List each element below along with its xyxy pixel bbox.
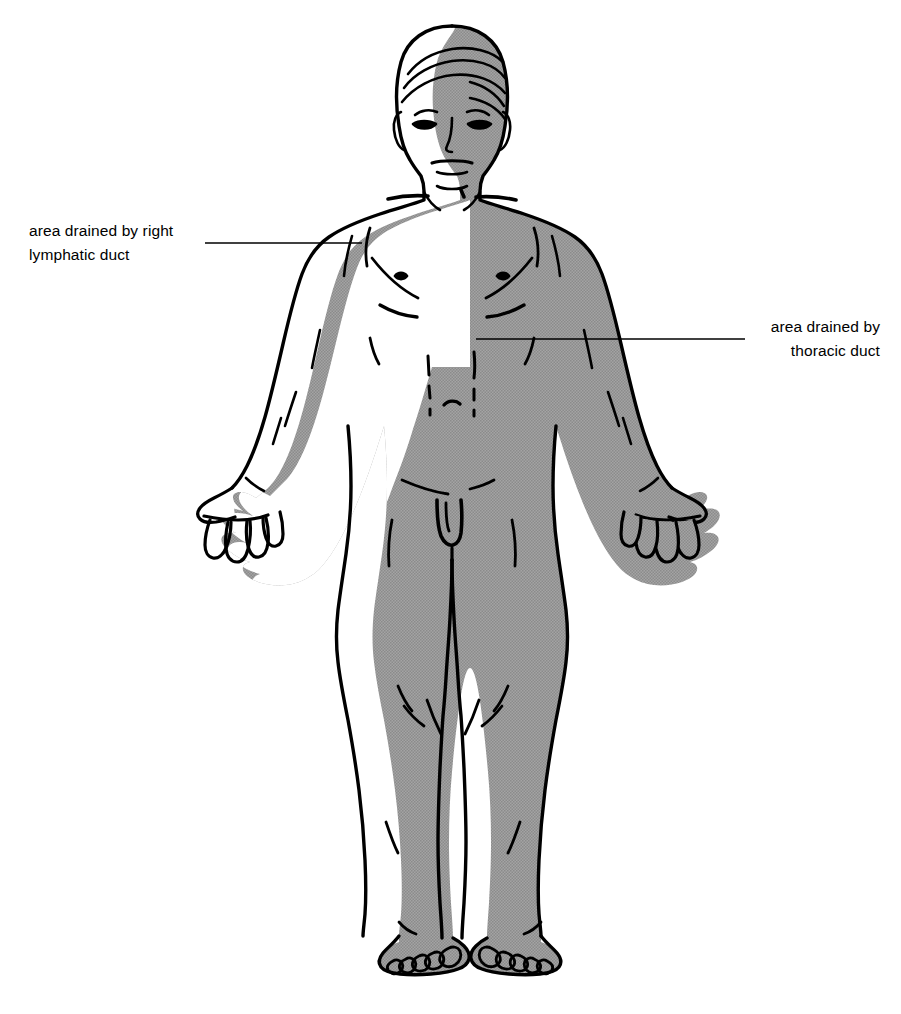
label-thoracic-duct: area drained by thoracic duct [771,315,880,363]
label-left-line2: lymphatic duct [29,243,173,267]
body-diagram-svg [0,0,901,1014]
label-left-line1: area drained by right [29,219,173,243]
label-right-lymphatic-duct: area drained by right lymphatic duct [29,219,173,267]
anatomical-figure-container: area drained by right lymphatic duct are… [0,0,901,1014]
label-right-line1: area drained by [771,315,880,339]
label-right-line2: thoracic duct [771,339,880,363]
